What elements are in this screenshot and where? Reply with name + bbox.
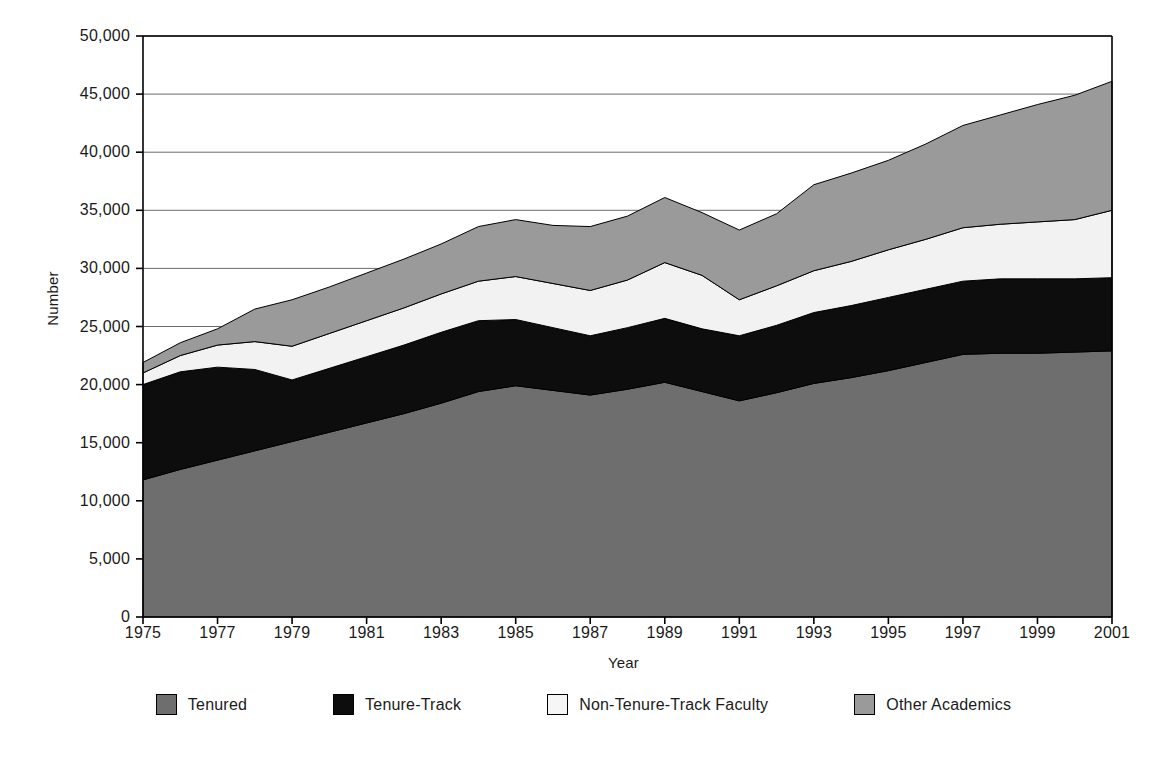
legend-swatch-icon: [333, 694, 354, 715]
chart-legend: TenuredTenure-TrackNon-Tenure-Track Facu…: [0, 694, 1167, 715]
legend-item[interactable]: Tenure-Track: [333, 694, 461, 715]
x-tick-label: 1983: [409, 624, 473, 642]
legend-label: Tenured: [188, 696, 247, 714]
x-tick-label: 1987: [558, 624, 622, 642]
x-tick-label: 1979: [260, 624, 324, 642]
x-tick-label: 1991: [707, 624, 771, 642]
x-axis-title-text: Year: [528, 654, 639, 671]
legend-swatch-icon: [156, 694, 177, 715]
x-tick-label: 1995: [856, 624, 920, 642]
x-tick-label: 1989: [633, 624, 697, 642]
x-tick-label: 1999: [1005, 624, 1069, 642]
x-tick-label: 1975: [111, 624, 175, 642]
legend-label: Tenure-Track: [365, 696, 461, 714]
legend-item[interactable]: Tenured: [156, 694, 247, 715]
legend-item[interactable]: Other Academics: [854, 694, 1011, 715]
x-tick-label: 1997: [931, 624, 995, 642]
x-axis-title: Year: [0, 654, 1167, 671]
legend-label: Other Academics: [886, 696, 1011, 714]
x-tick-label: 1981: [335, 624, 399, 642]
x-tick-label: 1985: [484, 624, 548, 642]
legend-swatch-icon: [547, 694, 568, 715]
legend-swatch-icon: [854, 694, 875, 715]
x-tick-label: 2001: [1080, 624, 1144, 642]
legend-label: Non-Tenure-Track Faculty: [579, 696, 768, 714]
legend-item[interactable]: Non-Tenure-Track Faculty: [547, 694, 768, 715]
x-tick-label: 1977: [186, 624, 250, 642]
x-tick-label: 1993: [782, 624, 846, 642]
x-axis-tick-labels: 1975197719791981198319851987198919911993…: [0, 0, 1167, 761]
stacked-area-chart: Number 05,00010,00015,00020,00025,00030,…: [0, 0, 1167, 761]
